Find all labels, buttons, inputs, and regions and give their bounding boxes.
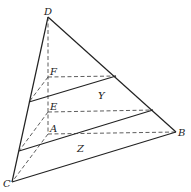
label-B: B [177,127,185,138]
label-E: E [49,101,58,112]
diagram-canvas: D F E A B C Y Z [0,0,191,192]
label-A: A [49,123,57,134]
dash-E-right [48,110,153,112]
edge-DB [48,17,176,132]
label-C: C [3,178,11,189]
label-Z: Z [76,143,85,154]
edge-CB [12,132,176,182]
dash-F-right [48,76,116,77]
label-Y: Y [98,90,106,101]
label-F: F [49,66,58,77]
dash-AB [48,132,176,134]
edge-DC [12,17,48,182]
label-D: D [43,6,52,17]
